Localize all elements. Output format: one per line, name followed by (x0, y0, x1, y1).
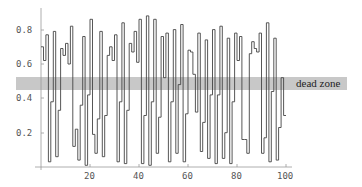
x-tick-label: 40 (133, 171, 144, 181)
x-tick-label: 20 (84, 171, 95, 181)
y-tick-label: 0.6 (16, 59, 32, 69)
step-series-line (41, 16, 286, 165)
y-tick-label: 0.2 (16, 128, 32, 138)
y-tick-label: 0.8 (16, 25, 32, 35)
x-tick-label: 100 (277, 171, 293, 181)
dead-zone-label: dead zone (296, 77, 340, 89)
x-ticks: 20 40 60 80 100 (84, 164, 293, 181)
x-tick-label: 60 (182, 171, 193, 181)
x-tick-label: 80 (231, 171, 242, 181)
chart: dead zone 0.8 0.6 0.4 0.2 20 40 60 80 10… (0, 0, 362, 187)
y-tick-label: 0.4 (16, 93, 32, 103)
